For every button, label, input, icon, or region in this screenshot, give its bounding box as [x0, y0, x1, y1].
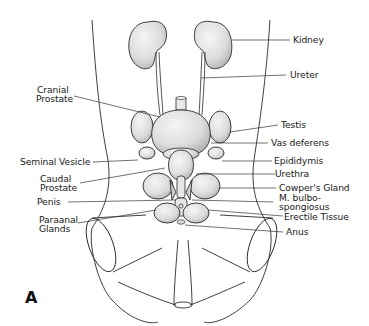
- label-testis: Testis: [281, 121, 306, 129]
- seminal-vesicle: [169, 150, 194, 180]
- label-caudal-prostate-2: Prostate: [40, 184, 77, 192]
- panel-letter: A: [25, 288, 37, 307]
- anus: [177, 220, 185, 224]
- anatomy-diagram: Kidney Ureter Testis Vas deferens Epidid…: [0, 0, 369, 326]
- epididymis-right: [208, 147, 224, 159]
- right-leg: [241, 215, 283, 276]
- label-anus: Anus: [286, 228, 308, 236]
- label-seminal-vesicle: Seminal Vesicle: [20, 158, 90, 166]
- urethra: [177, 176, 185, 198]
- label-vas-deferens: Vas deferens: [271, 139, 329, 147]
- tail: [174, 240, 192, 305]
- epididymis-left: [139, 147, 155, 159]
- label-paraanal-glands-2: Glands: [39, 225, 70, 233]
- left-leg: [80, 215, 122, 276]
- label-cranial-prostate-2: Prostate: [36, 95, 73, 103]
- label-erectile-tissue: Erectile Tissue: [284, 213, 349, 221]
- label-epididymis: Epididymis: [274, 157, 323, 165]
- tail-tip: [174, 302, 192, 308]
- label-penis: Penis: [37, 198, 61, 206]
- label-urethra: Urethra: [275, 170, 309, 178]
- label-kidney: Kidney: [293, 36, 324, 44]
- label-ureter: Ureter: [290, 71, 318, 79]
